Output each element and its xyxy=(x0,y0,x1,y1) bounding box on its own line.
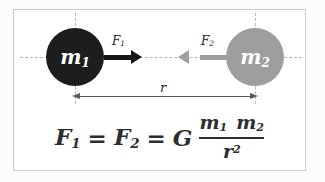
mass2-circle: m2 xyxy=(226,28,284,86)
formula-numerator-mass2: m2 xyxy=(236,112,264,135)
formula-force2-term: F2 xyxy=(114,123,140,151)
formula-equals-sign-1: = xyxy=(88,124,107,151)
formula-numerator-mass2-subscript: 2 xyxy=(256,121,264,134)
force1-arrow-shaft xyxy=(104,55,131,60)
gravitation-formula: F1 = F2 = G m1 m2 r2 xyxy=(13,106,306,168)
force2-arrow-shaft xyxy=(200,55,227,60)
mass1-label-subscript: 1 xyxy=(81,56,89,70)
formula-numerator: m1 m2 xyxy=(199,112,264,135)
formula-gravitational-constant: G xyxy=(173,124,193,151)
formula-numerator-mass1: m1 xyxy=(199,112,227,135)
formula-force1-base: F xyxy=(55,123,71,150)
formula-equals-sign-2: = xyxy=(147,124,166,151)
distance-arrow-left-head-icon xyxy=(72,93,80,99)
mass1-label: m1 xyxy=(60,45,90,70)
force1-arrow-head-icon xyxy=(131,50,142,64)
force1-label: F1 xyxy=(112,34,125,48)
formula-numerator-mass1-subscript: 1 xyxy=(220,121,228,134)
formula-denominator-base: r xyxy=(223,140,233,162)
formula-force1-subscript: 1 xyxy=(71,135,80,151)
mass2-label-subscript: 2 xyxy=(261,56,269,70)
formula-numerator-mass1-base: m xyxy=(199,111,219,133)
fraction-bar xyxy=(199,137,264,139)
distance-dimension-line xyxy=(80,96,250,97)
force2-label-subscript: 2 xyxy=(209,39,214,48)
mass2-label: m2 xyxy=(240,45,270,70)
force1-label-subscript: 1 xyxy=(120,39,125,48)
formula-force2-base: F xyxy=(114,123,130,150)
formula-denominator: r2 xyxy=(223,141,241,163)
formula-force1-term: F1 xyxy=(55,123,81,151)
gravitation-diagram: m1 m2 F1 F2 r F1 = F2 = G m1 m2 r2 xyxy=(0,0,325,182)
formula-denominator-exponent: 2 xyxy=(233,142,241,155)
force2-label: F2 xyxy=(201,34,214,48)
distance-label: r xyxy=(155,80,171,95)
mass1-circle: m1 xyxy=(46,28,104,86)
force2-arrow-head-icon xyxy=(178,50,189,64)
mass1-label-base: m xyxy=(60,45,81,69)
formula-force2-subscript: 2 xyxy=(130,135,139,151)
formula-fraction: m1 m2 r2 xyxy=(199,112,264,163)
mass2-label-base: m xyxy=(240,45,261,69)
formula-numerator-mass2-base: m xyxy=(236,111,256,133)
distance-arrow-right-head-icon xyxy=(250,93,258,99)
